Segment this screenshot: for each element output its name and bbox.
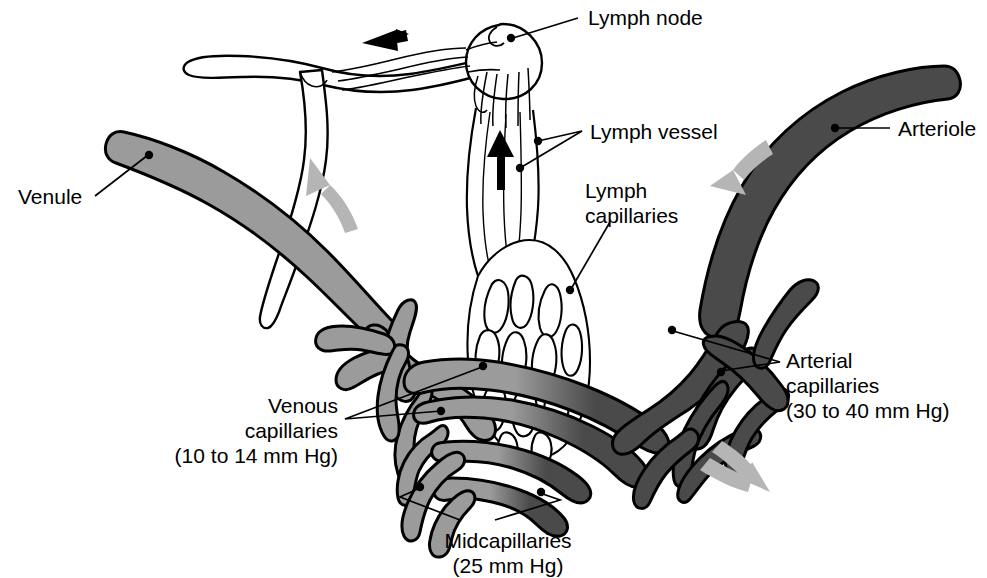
label-arterial-capillaries-line1: Arterial	[786, 348, 949, 373]
diagram-canvas: Lymph node Arteriole Lymph vessel Lymph …	[0, 0, 987, 578]
lymph-flow-up-arrow	[487, 130, 514, 190]
label-venous-capillaries: Venous capillaries (10 to 14 mm Hg)	[130, 393, 338, 468]
label-arteriole: Arteriole	[898, 116, 976, 141]
lymph-node	[466, 24, 542, 99]
lymph-flow-left-arrow	[362, 29, 409, 51]
label-arterial-capillaries: Arterial capillaries (30 to 40 mm Hg)	[786, 348, 949, 423]
label-venule: Venule	[18, 184, 82, 209]
dot-arterial-capillaries-lower	[717, 368, 725, 376]
label-arterial-capillaries-pressure: (30 to 40 mm Hg)	[786, 398, 949, 423]
label-venous-capillaries-line2: capillaries	[130, 418, 338, 443]
microcirculation-illustration	[0, 0, 987, 578]
leader-lymph-node	[513, 18, 578, 38]
dot-venule	[145, 151, 153, 159]
dot-lymph-node	[507, 34, 515, 42]
leader-lymph-capillaries	[571, 222, 610, 289]
label-lymph-capillaries-line2: capillaries	[585, 203, 678, 228]
dot-venous-capillaries-upper	[479, 362, 487, 370]
label-midcapillaries-line1: Midcapillaries	[398, 528, 618, 553]
label-arterial-capillaries-line2: capillaries	[786, 373, 949, 398]
label-lymph-node: Lymph node	[588, 5, 703, 30]
descending-lymph-branch	[260, 70, 328, 328]
efferent-lymph-vessel	[184, 56, 499, 92]
arteriole	[700, 66, 961, 338]
dot-midcapillaries-right	[537, 488, 545, 496]
dot-arteriole	[831, 124, 839, 132]
label-venous-capillaries-line1: Venous	[130, 393, 338, 418]
label-lymph-capillaries: Lymph capillaries	[585, 178, 678, 228]
dot-lymph-vessel-lower	[516, 164, 524, 172]
label-venous-capillaries-pressure: (10 to 14 mm Hg)	[130, 443, 338, 468]
label-lymph-vessel: Lymph vessel	[590, 119, 718, 144]
dot-venous-capillaries-lower	[437, 407, 445, 415]
dot-lymph-vessel-upper	[534, 137, 542, 145]
leader-lymph-vessel	[520, 131, 582, 168]
label-midcapillaries: Midcapillaries (25 mm Hg)	[398, 528, 618, 578]
dot-lymph-capillaries	[566, 286, 574, 294]
label-lymph-capillaries-line1: Lymph	[585, 178, 678, 203]
dot-arterial-capillaries-upper	[668, 326, 676, 334]
venule	[105, 132, 398, 346]
label-midcapillaries-pressure: (25 mm Hg)	[398, 553, 618, 578]
dot-midcapillaries-left	[416, 483, 424, 491]
